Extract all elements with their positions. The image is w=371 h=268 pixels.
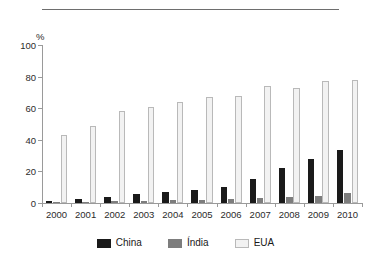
bar-group: [275, 45, 304, 203]
bar-group: [333, 45, 362, 203]
bar-group: [217, 45, 246, 203]
legend-swatch-icon: [235, 239, 249, 248]
bar-ndia-2001: [82, 202, 89, 203]
legend-item-ndia[interactable]: Índia: [168, 238, 209, 248]
x-axis-tick-mark: [158, 203, 159, 207]
bar-ndia-2003: [141, 201, 148, 203]
bar-china-2007: [250, 179, 257, 203]
y-axis-tick-label: 40: [2, 136, 36, 146]
x-axis-tick-label: 2002: [100, 210, 129, 220]
bar-china-2000: [46, 201, 53, 203]
bar-china-2010: [337, 150, 344, 203]
bar-group: [100, 45, 129, 203]
legend-item-eua[interactable]: EUA: [235, 238, 275, 248]
x-axis-tick-mark: [129, 203, 130, 207]
y-axis-tick-label: 100: [2, 41, 36, 51]
bar-chart-figure: % 020406080100 2000200120022003200420052…: [0, 0, 371, 268]
y-axis-tick-label: 60: [2, 104, 36, 114]
bar-china-2002: [104, 197, 111, 203]
bar-group: [129, 45, 158, 203]
bar-ndia-2009: [315, 196, 322, 203]
x-axis-tick-label: 2004: [158, 210, 187, 220]
x-axis-tick-label: 2000: [42, 210, 71, 220]
bar-group: [42, 45, 71, 203]
bar-eua-2000: [61, 135, 68, 203]
bar-china-2006: [221, 187, 228, 203]
y-axis-unit-label: %: [36, 31, 44, 42]
bar-group: [187, 45, 216, 203]
plot-area: 020406080100 200020012002200320042005200…: [42, 45, 362, 203]
bar-china-2001: [75, 199, 82, 203]
bar-group: [246, 45, 275, 203]
bar-ndia-2007: [257, 198, 264, 203]
x-axis-tick-mark: [304, 203, 305, 207]
x-axis-tick-mark: [100, 203, 101, 207]
bar-ndia-2006: [228, 199, 235, 203]
legend-label: China: [116, 238, 142, 248]
legend-swatch-icon: [97, 239, 111, 248]
bar-ndia-2000: [53, 202, 60, 203]
x-axis-tick-label: 2007: [246, 210, 275, 220]
bar-ndia-2005: [199, 200, 206, 203]
legend-label: Índia: [187, 238, 209, 248]
x-axis-tick-label: 2010: [333, 210, 362, 220]
bar-eua-2003: [148, 107, 155, 203]
chart-legend: ChinaÍndiaEUA: [0, 238, 371, 248]
bar-ndia-2010: [344, 193, 351, 203]
bar-china-2009: [308, 159, 315, 203]
legend-swatch-icon: [168, 239, 182, 248]
x-axis-tick-mark: [71, 203, 72, 207]
bar-ndia-2008: [286, 197, 293, 203]
bar-eua-2001: [90, 126, 97, 203]
bar-china-2005: [191, 190, 198, 203]
y-axis-tick-label: 20: [2, 167, 36, 177]
x-axis-tick-label: 2001: [71, 210, 100, 220]
bar-eua-2005: [206, 97, 213, 203]
bar-eua-2008: [293, 88, 300, 203]
bar-eua-2007: [264, 86, 271, 203]
x-axis-tick-label: 2005: [187, 210, 216, 220]
chart-title-strip: [0, 0, 371, 12]
x-axis-tick-mark: [187, 203, 188, 207]
legend-item-china[interactable]: China: [97, 238, 142, 248]
x-axis-tick-mark: [246, 203, 247, 207]
x-axis-tick-mark: [217, 203, 218, 207]
y-axis-tick-label: 80: [2, 73, 36, 83]
bar-eua-2010: [352, 80, 359, 203]
x-axis-tick-mark: [42, 203, 43, 207]
bar-china-2008: [279, 168, 286, 203]
bar-group: [71, 45, 100, 203]
bar-eua-2002: [119, 111, 126, 203]
y-axis-tick-label: 0: [2, 199, 36, 209]
x-axis-tick-label: 2003: [129, 210, 158, 220]
bar-eua-2006: [235, 96, 242, 203]
x-axis-tick-mark: [362, 203, 363, 207]
x-axis-tick-mark: [333, 203, 334, 207]
bar-ndia-2002: [111, 201, 118, 203]
x-axis-tick-mark: [275, 203, 276, 207]
bar-china-2003: [133, 194, 140, 203]
bar-eua-2009: [322, 81, 329, 203]
title-divider: [42, 9, 339, 10]
bar-eua-2004: [177, 102, 184, 203]
legend-label: EUA: [254, 238, 275, 248]
bar-ndia-2004: [170, 200, 177, 203]
bar-group: [158, 45, 187, 203]
bar-group: [304, 45, 333, 203]
x-axis-tick-label: 2008: [275, 210, 304, 220]
bar-china-2004: [162, 192, 169, 203]
x-axis-tick-label: 2009: [304, 210, 333, 220]
x-axis-line: [42, 203, 362, 204]
x-axis-tick-label: 2006: [217, 210, 246, 220]
